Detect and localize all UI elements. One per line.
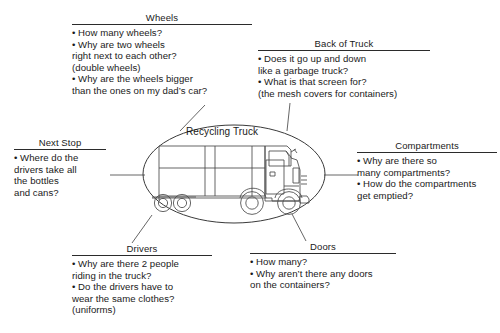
cluster-next-stop-line-3: the bottles [14,175,106,187]
center-label: Recycling Truck [186,126,258,137]
cluster-next-stop-line-1: • Where do the [14,152,106,164]
cluster-compartments-line-4: get emptied? [357,190,497,202]
cluster-drivers-line-2: riding in the truck? [72,270,212,282]
cluster-wheels-lines: • How many wheels? • Why are two wheels … [72,27,252,97]
cluster-doors-lines: • How many? • Why aren’t there any doors… [250,256,396,291]
cluster-drivers-lines: • Why are there 2 people riding in the t… [72,258,212,316]
cluster-back-of-truck: Back of Truck • Does it go up and down l… [258,38,430,99]
cluster-wheels-line-2: • Why are two wheels [72,39,252,51]
cluster-back-of-truck-lines: • Does it go up and down like a garbage … [258,53,430,99]
connector-drivers [132,215,152,243]
cluster-compartments-line-2: many compartments? [357,167,497,179]
recycling-truck-illustration [152,146,309,214]
connector-back-of-truck [287,103,290,131]
cluster-back-of-truck-line-1: • Does it go up and down [258,53,430,65]
cluster-wheels-line-6: than the ones on my dad’s car? [72,85,252,97]
cluster-next-stop-lines: • Where do the drivers take all the bott… [14,152,106,198]
cluster-wheels-line-1: • How many wheels? [72,27,252,39]
cluster-doors-heading: Doors [250,241,396,254]
cluster-back-of-truck-line-3: • What is that screen for? [258,76,430,88]
cluster-back-of-truck-heading: Back of Truck [258,38,430,51]
cluster-drivers-heading: Drivers [72,243,212,256]
cluster-compartments-lines: • Why are there so many compartments? • … [357,155,497,201]
cluster-doors-line-2: • Why aren’t there any doors [250,268,396,280]
cluster-compartments: Compartments • Why are there so many com… [357,140,497,201]
cluster-next-stop-heading: Next Stop [14,137,106,150]
cluster-compartments-line-1: • Why are there so [357,155,497,167]
cluster-next-stop-line-2: drivers take all [14,164,106,176]
cluster-wheels-heading: Wheels [72,12,252,25]
cluster-doors: Doors • How many? • Why aren’t there any… [250,241,396,291]
cluster-drivers-line-4: wear the same clothes? [72,293,212,305]
cluster-drivers-line-3: • Do the drivers have to [72,281,212,293]
cluster-next-stop: Next Stop • Where do the drivers take al… [14,137,106,198]
cluster-wheels: Wheels • How many wheels? • Why are two … [72,12,252,97]
cluster-back-of-truck-line-4: (the mesh covers for containers) [258,88,430,100]
cluster-back-of-truck-line-2: like a garbage truck? [258,65,430,77]
concept-web-diagram: Recycling Truck Wheels • How many wheels… [0,0,500,333]
cluster-wheels-line-4: (double wheels) [72,62,252,74]
cluster-drivers-line-1: • Why are there 2 people [72,258,212,270]
cluster-wheels-line-5: • Why are the wheels bigger [72,73,252,85]
cluster-wheels-line-3: right next to each other? [72,50,252,62]
cluster-drivers-line-5: (uniforms) [72,304,212,316]
cluster-drivers: Drivers • Why are there 2 people riding … [72,243,212,316]
cluster-doors-line-3: on the containers? [250,279,396,291]
cluster-compartments-heading: Compartments [357,140,497,153]
connector-doors [292,214,306,241]
cluster-compartments-line-3: • How do the compartments [357,178,497,190]
cluster-doors-line-1: • How many? [250,256,396,268]
cluster-next-stop-line-4: and cans? [14,187,106,199]
